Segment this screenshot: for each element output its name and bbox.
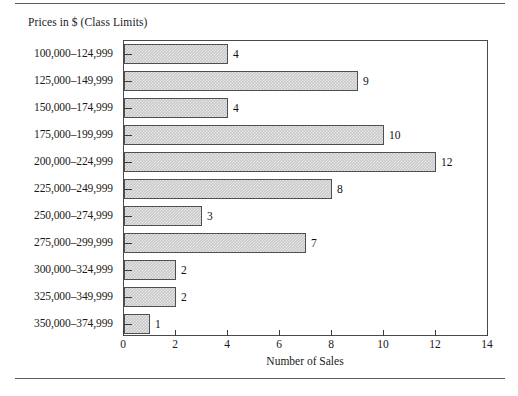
y-axis-category-label: 275,000–299,999 <box>34 236 113 248</box>
bar <box>124 125 384 145</box>
y-axis-tick <box>124 108 132 109</box>
bar-value-label: 7 <box>311 237 317 249</box>
bar-row: 4 <box>124 44 489 64</box>
y-axis-category-label: 100,000–124,999 <box>34 47 113 59</box>
bar-value-label: 12 <box>441 156 453 168</box>
y-axis-category-label: 350,000–374,999 <box>34 317 113 329</box>
bar <box>124 98 228 118</box>
bar <box>124 179 332 199</box>
bar-series: 4941012837221 <box>124 41 487 335</box>
y-axis-tick <box>124 297 132 298</box>
x-axis-tick-label: 0 <box>120 338 126 350</box>
y-axis-tick <box>124 270 132 271</box>
bar-value-label: 2 <box>181 264 187 276</box>
x-axis-tick <box>279 330 280 336</box>
x-axis-ticks <box>123 330 488 336</box>
x-axis-title: Number of Sales <box>0 355 518 367</box>
bar-row: 10 <box>124 125 489 145</box>
bar-row: 8 <box>124 179 489 199</box>
bar-value-label: 4 <box>233 48 239 60</box>
x-axis-tick <box>435 330 436 336</box>
y-axis-category-label: 325,000–349,999 <box>34 290 113 302</box>
x-axis-tick-labels: 02468101214 <box>0 338 518 354</box>
x-axis-tick <box>175 330 176 336</box>
y-axis-tick <box>124 135 132 136</box>
bar-value-label: 4 <box>233 102 239 114</box>
bar-value-label: 1 <box>155 318 161 330</box>
y-axis-tick <box>124 81 132 82</box>
bar-value-label: 8 <box>337 183 343 195</box>
bar-row: 7 <box>124 233 489 253</box>
x-axis-tick <box>331 330 332 336</box>
figure-bottom-rule <box>15 378 505 379</box>
bar-row: 4 <box>124 98 489 118</box>
bar-value-label: 10 <box>389 129 401 141</box>
y-axis-tick <box>124 243 132 244</box>
y-axis-tick <box>124 162 132 163</box>
bar-value-label: 2 <box>181 291 187 303</box>
figure-top-rule <box>15 3 505 4</box>
x-axis-tick-label: 10 <box>377 338 389 350</box>
bar-value-label: 3 <box>207 210 213 222</box>
bar <box>124 44 228 64</box>
y-axis-category-label: 225,000–249,999 <box>34 182 113 194</box>
y-axis-tick <box>124 54 132 55</box>
y-axis-category-label: 250,000–274,999 <box>34 209 113 221</box>
x-axis-tick <box>123 330 124 336</box>
y-axis-tick <box>124 216 132 217</box>
x-axis-tick-label: 14 <box>481 338 493 350</box>
y-axis-title: Prices in $ (Class Limits) <box>28 16 148 28</box>
y-axis-category-label: 175,000–199,999 <box>34 128 113 140</box>
bar-row: 12 <box>124 152 489 172</box>
y-axis-category-label: 300,000–324,999 <box>34 263 113 275</box>
x-axis-tick-label: 6 <box>276 338 282 350</box>
y-axis-category-label: 150,000–174,999 <box>34 101 113 113</box>
bar-row: 3 <box>124 206 489 226</box>
x-axis-tick <box>227 330 228 336</box>
bar <box>124 152 436 172</box>
y-axis-tick-labels: 100,000–124,999125,000–149,999150,000–17… <box>0 40 119 336</box>
y-axis-tick <box>124 324 132 325</box>
x-axis-title-text: Number of Sales <box>266 355 343 367</box>
y-axis-category-label: 200,000–224,999 <box>34 155 113 167</box>
bar <box>124 71 358 91</box>
bar-row: 2 <box>124 260 489 280</box>
x-axis-tick-label: 2 <box>172 338 178 350</box>
bar-row: 2 <box>124 287 489 307</box>
x-axis-tick <box>383 330 384 336</box>
bar <box>124 233 306 253</box>
bar <box>124 206 202 226</box>
x-axis-tick-label: 4 <box>224 338 230 350</box>
x-axis-tick-label: 8 <box>328 338 334 350</box>
plot-area: 4941012837221 <box>123 40 488 336</box>
x-axis-tick <box>487 330 488 336</box>
y-axis-tick <box>124 189 132 190</box>
bar-row: 9 <box>124 71 489 91</box>
y-axis-category-label: 125,000–149,999 <box>34 74 113 86</box>
x-axis-tick-label: 12 <box>429 338 441 350</box>
bar-value-label: 9 <box>363 75 369 87</box>
